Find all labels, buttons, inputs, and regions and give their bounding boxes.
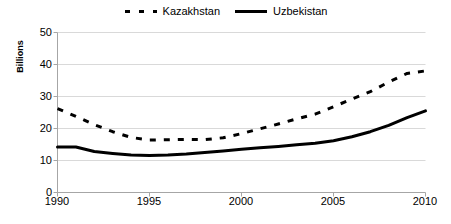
y-tick-label-30: 30 (30, 91, 52, 102)
x-tick-label-1990: 1990 (34, 196, 80, 207)
x-tick-label-2010: 2010 (402, 196, 448, 207)
y-tick-label-10: 10 (30, 155, 52, 166)
series-line-kazakhstan (58, 71, 426, 140)
y-tick-label-50: 50 (30, 27, 52, 38)
y-tick-label-40: 40 (30, 59, 52, 70)
plot-svg (0, 0, 451, 224)
y-axis-title: Billions (16, 29, 25, 85)
x-tick-label-2005: 2005 (310, 196, 356, 207)
x-tick-labels: 1990 1995 2000 2005 2010 (0, 196, 451, 216)
x-tick-label-2000: 2000 (218, 196, 264, 207)
line-chart: Kazakhstan Uzbekistan (0, 0, 451, 224)
gridlines (58, 33, 426, 161)
y-tick-label-20: 20 (30, 123, 52, 134)
x-tick-label-1995: 1995 (126, 196, 172, 207)
y-tick-labels: 50 40 30 20 10 0 (26, 0, 52, 224)
y-tick-marks (54, 33, 58, 193)
plot-area (0, 0, 451, 224)
axis-lines (58, 33, 426, 193)
